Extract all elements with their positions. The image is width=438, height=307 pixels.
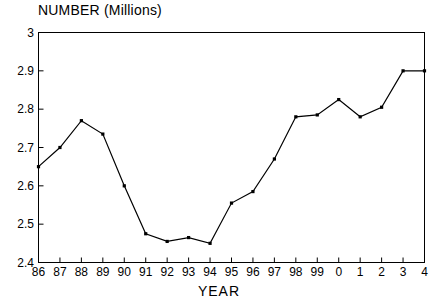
x-tick-label: 99 xyxy=(305,265,329,279)
x-tick-label: 2 xyxy=(370,265,394,279)
x-tick-label: 95 xyxy=(220,265,244,279)
x-tick-label: 88 xyxy=(69,265,93,279)
plot-frame xyxy=(39,33,425,263)
x-tick-label: 96 xyxy=(241,265,265,279)
x-tick-label: 91 xyxy=(134,265,158,279)
data-point-marker xyxy=(401,69,404,72)
data-point-marker xyxy=(144,232,147,235)
data-point-marker xyxy=(337,98,340,101)
data-point-marker xyxy=(316,113,319,116)
data-point-marker xyxy=(380,106,383,109)
x-tick-label: 4 xyxy=(413,265,437,279)
x-tick-label: 3 xyxy=(391,265,415,279)
data-point-marker xyxy=(273,157,276,160)
data-series-markers xyxy=(37,69,426,245)
axes-frame xyxy=(39,33,425,263)
x-tick-label: 92 xyxy=(155,265,179,279)
data-point-marker xyxy=(294,115,297,118)
data-point-marker xyxy=(423,69,426,72)
x-tick-label: 1 xyxy=(348,265,372,279)
data-point-marker xyxy=(123,184,126,187)
data-point-marker xyxy=(166,240,169,243)
data-series-line xyxy=(39,71,425,244)
x-tick-label: 94 xyxy=(198,265,222,279)
x-tick-marks xyxy=(60,258,403,263)
x-tick-label: 0 xyxy=(327,265,351,279)
x-tick-label: 86 xyxy=(27,265,51,279)
x-tick-label: 97 xyxy=(262,265,286,279)
x-axis-label: YEAR xyxy=(0,283,438,299)
data-point-marker xyxy=(37,165,40,168)
data-point-marker xyxy=(208,242,211,245)
x-tick-label: 93 xyxy=(177,265,201,279)
data-point-marker xyxy=(101,132,104,135)
data-point-marker xyxy=(187,236,190,239)
plot-area xyxy=(0,0,438,307)
x-tick-label: 98 xyxy=(284,265,308,279)
x-tick-label: 87 xyxy=(48,265,72,279)
data-point-marker xyxy=(58,146,61,149)
chart-figure: NUMBER (Millions) 2.42.52.62.72.82.93 86… xyxy=(0,0,438,307)
x-tick-label: 89 xyxy=(91,265,115,279)
data-point-marker xyxy=(230,201,233,204)
data-point-marker xyxy=(251,190,254,193)
y-tick-marks xyxy=(39,71,44,224)
data-point-marker xyxy=(359,115,362,118)
x-tick-label: 90 xyxy=(112,265,136,279)
data-point-marker xyxy=(80,119,83,122)
